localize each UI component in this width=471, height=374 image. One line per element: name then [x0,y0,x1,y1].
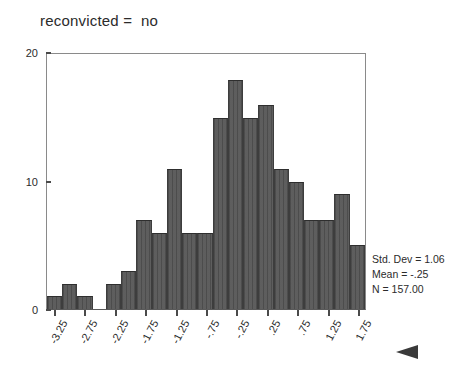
histogram-bar [121,271,136,309]
x-tick-mark [115,310,117,316]
histogram-bar [258,105,273,309]
y-tick-mark [46,309,51,311]
x-tick-label: -1.75 [138,318,160,346]
histogram-bar [213,118,228,309]
histogram-bar [62,284,77,310]
x-tick-mark [267,310,269,316]
x-tick-mark [206,310,208,316]
histogram-bar [274,169,289,309]
histogram-bar [136,220,151,309]
y-axis: 01020 [10,0,38,374]
x-tick-label: -.75 [202,318,222,340]
histogram-bar [106,284,121,310]
histogram-bar [47,296,62,309]
histogram-bar [182,233,197,310]
x-tick-mark [84,310,86,316]
x-tick-mark [236,310,238,316]
y-tick-mark [46,52,51,54]
std-dev-label: Std. Dev = 1.06 [372,252,445,267]
y-tick-label: 20 [26,47,38,59]
histogram-bar [152,233,167,310]
histogram-figure: reconvicted = no 01020 Std. Dev = 1.06 M… [0,0,471,374]
x-tick-mark [145,310,147,316]
x-tick-label: -2.75 [77,318,99,346]
x-tick-mark [54,310,56,316]
chart-title: reconvicted = no [40,12,158,29]
y-tick-label: 0 [32,304,38,316]
histogram-bar [319,220,334,309]
x-tick-mark [176,310,178,316]
x-tick-mark [328,310,330,316]
histogram-bar [167,169,182,309]
histogram-bar [77,296,92,309]
arrow-pointer-icon [396,345,418,359]
statistics-annotation: Std. Dev = 1.06 Mean = -.25 N = 157.00 [372,252,445,297]
histogram-bar [350,245,365,309]
plot-area [46,53,366,310]
x-tick-label: -.25 [233,318,253,340]
histogram-bar [243,118,258,309]
x-tick-label: -3.25 [47,318,69,346]
y-tick-mark [46,181,51,183]
x-tick-mark [297,310,299,316]
x-tick-label: -2.25 [108,318,130,346]
histogram-bar [304,220,319,309]
x-tick-label: .75 [295,318,313,337]
x-tick-label: 1.25 [323,318,344,343]
histogram-bars [47,54,365,309]
histogram-bar [228,80,243,310]
histogram-bar [334,194,349,309]
x-tick-label: 1.75 [353,318,374,343]
n-label: N = 157.00 [372,282,445,297]
y-tick-label: 10 [26,176,38,188]
x-tick-label: .25 [265,318,283,337]
histogram-bar [197,233,212,310]
mean-label: Mean = -.25 [372,267,445,282]
x-tick-mark [358,310,360,316]
x-tick-label: -1.25 [169,318,191,346]
histogram-bar [289,182,304,310]
